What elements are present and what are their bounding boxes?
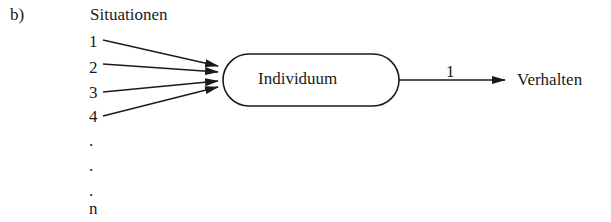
individuum-node-label: Individuum bbox=[258, 70, 337, 87]
arrow-situation-3 bbox=[103, 81, 218, 92]
arrow-situation-2 bbox=[103, 64, 218, 72]
edge-label: 1 bbox=[446, 63, 455, 80]
output-label: Verhalten bbox=[517, 71, 582, 88]
arrow-situation-1 bbox=[103, 40, 218, 66]
diagram-arrows bbox=[0, 0, 611, 222]
arrow-situation-4 bbox=[103, 87, 218, 116]
